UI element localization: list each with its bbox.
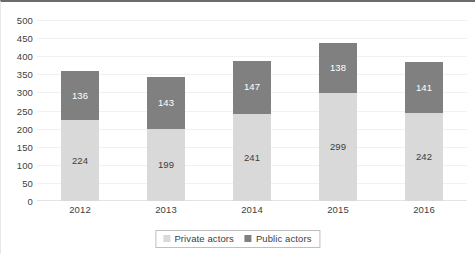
bar-group-2013[interactable]: 143 199	[147, 77, 185, 201]
x-axis: 2012 2013 2014 2015 2016	[37, 204, 467, 220]
bar-value-label: 241	[244, 153, 260, 163]
bar-group-2016[interactable]: 141 242	[405, 62, 443, 201]
y-axis-tick: 450	[17, 33, 33, 44]
y-axis-tick: 150	[17, 141, 33, 152]
bar-value-label: 141	[416, 83, 432, 93]
bar-segment-public[interactable]: 143	[147, 77, 185, 129]
bar-segment-private[interactable]: 241	[233, 114, 271, 201]
stacked-bar-chart: 500 450 400 350 300 250 200 150 100 50 0…	[0, 0, 475, 254]
bar-segment-private[interactable]: 242	[405, 113, 443, 201]
x-axis-tick-2016: 2016	[413, 204, 435, 215]
bar-segment-public[interactable]: 141	[405, 62, 443, 113]
x-axis-tick-2012: 2012	[69, 204, 91, 215]
bar-segment-public[interactable]: 138	[319, 43, 357, 93]
bar-value-label: 136	[72, 91, 88, 101]
bar-value-label: 242	[416, 152, 432, 162]
bar-value-label: 147	[244, 82, 260, 92]
y-axis-tick: 100	[17, 159, 33, 170]
legend-swatch-icon	[245, 235, 252, 242]
bar-value-label: 143	[158, 98, 174, 108]
bar-value-label: 138	[330, 63, 346, 73]
y-axis: 500 450 400 350 300 250 200 150 100 50 0	[1, 20, 33, 201]
bar-segment-private[interactable]: 224	[61, 120, 99, 201]
y-axis-tick: 400	[17, 51, 33, 62]
y-axis-tick: 300	[17, 87, 33, 98]
bar-segment-private[interactable]: 199	[147, 129, 185, 201]
legend-item-public-actors[interactable]: Public actors	[245, 233, 312, 244]
bar-group-2012[interactable]: 136 224	[61, 71, 99, 201]
bars-layer: 136 224 143 199 147 241 138	[37, 20, 467, 201]
y-axis-tick: 200	[17, 123, 33, 134]
bar-group-2015[interactable]: 138 299	[319, 43, 357, 201]
bar-segment-public[interactable]: 136	[61, 71, 99, 120]
y-axis-tick: 50	[22, 177, 33, 188]
x-axis-tick-2014: 2014	[241, 204, 263, 215]
chart-legend: Private actors Public actors	[155, 230, 320, 248]
legend-swatch-icon	[163, 235, 170, 242]
legend-label: Public actors	[256, 233, 312, 244]
bar-value-label: 299	[330, 142, 346, 152]
x-axis-tick-2015: 2015	[327, 204, 349, 215]
bar-value-label: 199	[158, 160, 174, 170]
bar-segment-public[interactable]: 147	[233, 61, 271, 114]
bar-group-2014[interactable]: 147 241	[233, 61, 271, 201]
y-axis-tick: 500	[17, 15, 33, 26]
y-axis-tick: 0	[28, 196, 33, 207]
bar-segment-private[interactable]: 299	[319, 93, 357, 201]
y-axis-tick: 250	[17, 105, 33, 116]
legend-label: Private actors	[174, 233, 233, 244]
x-axis-tick-2013: 2013	[155, 204, 177, 215]
y-axis-tick: 350	[17, 69, 33, 80]
bar-value-label: 224	[72, 156, 88, 166]
legend-item-private-actors[interactable]: Private actors	[163, 233, 233, 244]
